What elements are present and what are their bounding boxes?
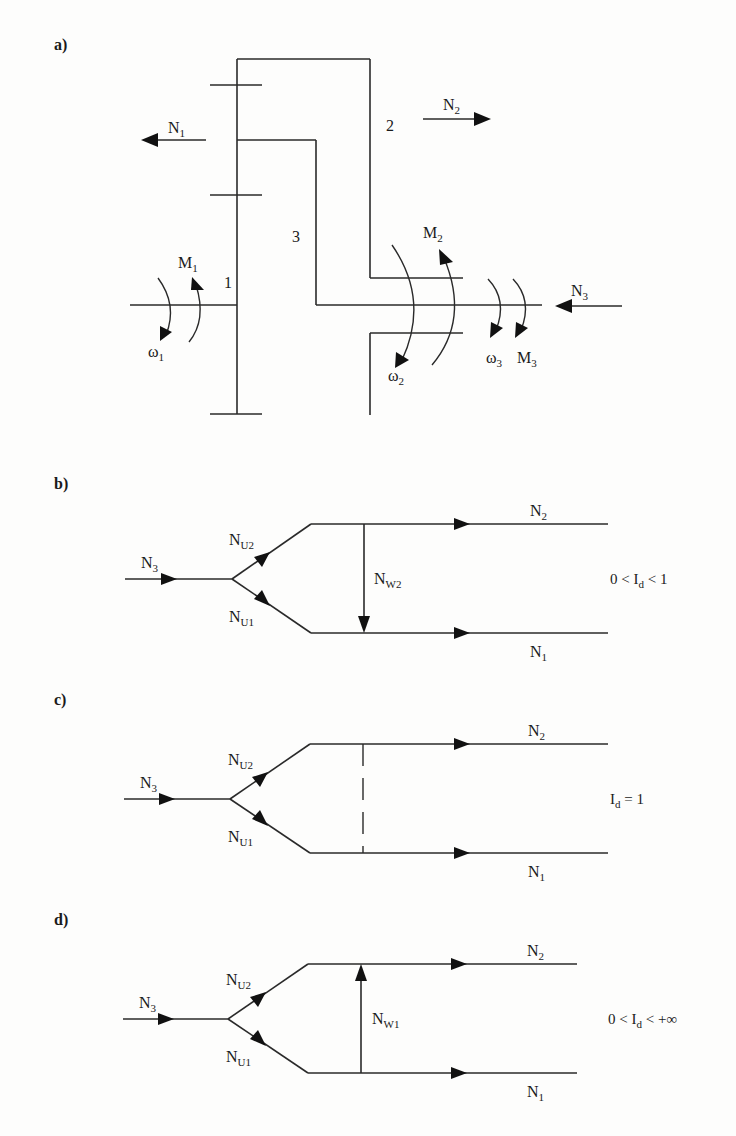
- gear-number-3: 3: [292, 228, 300, 245]
- arrowhead-right-icon: [454, 738, 470, 750]
- arrowhead-icon: [250, 1030, 266, 1046]
- gear-1-disc: [210, 59, 262, 414]
- arrowhead-icon: [252, 810, 268, 826]
- force-n1-arrow: N1: [141, 119, 206, 147]
- arrowhead-right-icon: [454, 847, 470, 859]
- svg-text:N1: N1: [527, 1083, 544, 1103]
- svg-text:N2: N2: [530, 502, 547, 522]
- figure-canvas: a) 1 2 3: [0, 0, 736, 1136]
- svg-text:NU1: NU1: [228, 828, 253, 848]
- arrowhead-right-icon: [454, 518, 470, 530]
- gear-number-2: 2: [386, 117, 394, 134]
- arrowhead-right-icon: [454, 627, 470, 639]
- arrowhead-right-icon: [451, 1067, 467, 1079]
- force-n2-arrow: N2: [423, 96, 491, 126]
- power-flow-network-c: [124, 738, 608, 859]
- panel-b: b) N3 NU2 NU1 NW2 N2 N1 0 < Id < 1: [54, 475, 667, 663]
- svg-text:M3: M3: [517, 349, 537, 369]
- panel-a: a) 1 2 3: [54, 36, 622, 415]
- svg-text:N1: N1: [168, 119, 185, 139]
- rotation-arrowhead-icon: [490, 322, 503, 338]
- svg-text:N2: N2: [443, 96, 460, 116]
- panel-d-label: d): [54, 911, 68, 929]
- moment-m1-rotation: M1 ω1: [148, 254, 204, 363]
- svg-text:NU1: NU1: [226, 1048, 251, 1068]
- svg-text:NU1: NU1: [229, 608, 254, 628]
- arrowhead-right-icon: [158, 1013, 174, 1025]
- arrowhead-icon: [254, 590, 270, 606]
- rotation-arrowhead-icon: [439, 249, 453, 265]
- svg-text:N1: N1: [528, 863, 545, 883]
- svg-text:N3: N3: [141, 554, 159, 574]
- power-flow-network-d: [123, 958, 577, 1079]
- gear-number-1: 1: [224, 274, 232, 291]
- svg-text:NW2: NW2: [374, 570, 401, 590]
- svg-text:NU2: NU2: [226, 971, 251, 991]
- force-n3-arrow: N3: [555, 282, 622, 313]
- panel-c: c) N3 NU2 NU1 N2 N1 Id = 1: [54, 691, 644, 883]
- arrowhead-up-icon: [355, 964, 367, 981]
- rotation-arrowhead-icon: [160, 326, 172, 341]
- arrowhead-right-icon: [161, 573, 177, 585]
- svg-text:N3: N3: [571, 282, 589, 302]
- arrowhead-icon: [252, 772, 268, 787]
- rotation-arrowhead-icon: [515, 322, 528, 338]
- svg-text:NU2: NU2: [229, 531, 254, 551]
- svg-text:N2: N2: [528, 722, 545, 742]
- svg-text:N3: N3: [139, 994, 157, 1014]
- svg-text:ω2: ω2: [388, 367, 404, 387]
- svg-text:ω1: ω1: [148, 343, 164, 363]
- gear-3-shaft: [237, 140, 542, 305]
- svg-text:N2: N2: [527, 942, 544, 962]
- svg-text:M2: M2: [423, 224, 443, 244]
- rotation-arrowhead-icon: [191, 277, 204, 290]
- svg-text:ω3: ω3: [486, 349, 503, 369]
- panel-d: d) N3 NU2 NU1 NW1 N2 N1 0 < Id < +∞: [54, 911, 677, 1103]
- condition-c: Id = 1: [610, 791, 644, 810]
- power-flow-network-b: [125, 518, 608, 639]
- arrowhead-left-icon: [555, 299, 572, 313]
- svg-text:NW1: NW1: [372, 1010, 399, 1030]
- arrowhead-right-icon: [474, 112, 491, 126]
- svg-text:M1: M1: [178, 254, 198, 274]
- panel-c-label: c): [54, 691, 66, 709]
- arrowhead-right-icon: [159, 793, 175, 805]
- arrowhead-left-icon: [141, 133, 158, 147]
- panel-b-label: b): [54, 475, 68, 493]
- svg-text:N3: N3: [140, 774, 158, 794]
- arrowhead-right-icon: [451, 958, 467, 970]
- arrowhead-down-icon: [358, 616, 370, 633]
- svg-text:NU2: NU2: [228, 751, 253, 771]
- differential-power-flow-figure: a) 1 2 3: [0, 0, 736, 1136]
- arrowhead-icon: [254, 552, 270, 567]
- condition-d: 0 < Id < +∞: [608, 1011, 677, 1030]
- panel-a-label: a): [54, 36, 67, 54]
- rotation-arrowhead-icon: [395, 352, 409, 368]
- condition-b: 0 < Id < 1: [610, 571, 667, 590]
- moment-m3-rotation: ω3 M3: [486, 279, 537, 369]
- arrowhead-icon: [250, 992, 266, 1007]
- svg-text:N1: N1: [530, 643, 547, 663]
